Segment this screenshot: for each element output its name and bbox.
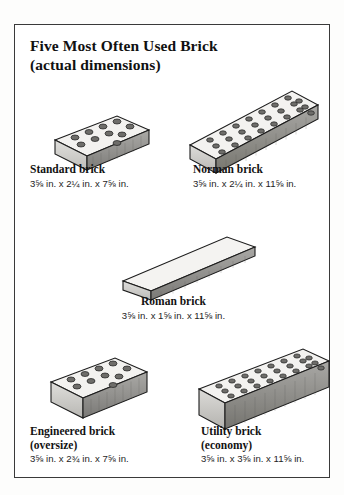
brick-subtitle-engineered: (oversize)	[30, 439, 129, 453]
brick-isometric-icon	[180, 83, 326, 165]
brick-isometric-icon	[115, 225, 263, 297]
brick-name-norman: Norman brick	[193, 163, 296, 177]
brick-name-engineered: Engineered brick	[30, 425, 129, 439]
brick-dimensions-norman: 3⅝ in. x 2¼ in. x 11⅝ in.	[193, 178, 296, 190]
brick-dimensions-standard: 3⅝ in. x 2¼ in. x 7⅝ in.	[30, 178, 129, 190]
page-title-line-2: (actual dimensions)	[30, 56, 315, 75]
brick-isometric-icon	[23, 350, 155, 426]
figure-frame: Five Most Often Used Brick (actual dimen…	[14, 24, 330, 478]
brick-illustration-roman	[115, 225, 263, 297]
brick-name-utility: Utility brick	[201, 425, 304, 439]
caption-utility: Utility brick (economy) 3⅝ in. x 3⅝ in. …	[201, 425, 304, 466]
caption-standard: Standard brick 3⅝ in. x 2¼ in. x 7⅝ in.	[30, 163, 129, 190]
brick-dimensions-engineered: 3⅝ in. x 2¾ in. x 7⅝ in.	[30, 453, 129, 465]
caption-norman: Norman brick 3⅝ in. x 2¼ in. x 11⅝ in.	[193, 163, 296, 190]
brick-name-standard: Standard brick	[30, 163, 129, 177]
brick-dimensions-roman: 3⅝ in. x 1⅝ in. x 11⅝ in.	[96, 310, 251, 322]
caption-engineered: Engineered brick (oversize) 3⅝ in. x 2¾ …	[30, 425, 129, 466]
brick-name-roman: Roman brick	[96, 295, 251, 309]
brick-subtitle-utility: (economy)	[201, 439, 304, 453]
page-title: Five Most Often Used Brick (actual dimen…	[30, 37, 315, 75]
brick-isometric-icon	[193, 347, 333, 429]
brick-illustration-engineered	[23, 350, 155, 426]
page-title-line-1: Five Most Often Used Brick	[30, 37, 315, 56]
brick-illustration-norman	[180, 83, 326, 165]
brick-illustration-utility	[193, 347, 333, 429]
brick-dimensions-utility: 3⅝ in. x 3⅝ in. x 11⅝ in.	[201, 453, 304, 465]
caption-roman: Roman brick 3⅝ in. x 1⅝ in. x 11⅝ in.	[96, 295, 251, 322]
